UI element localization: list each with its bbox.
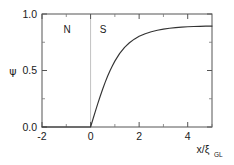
normal-region-label: N <box>63 24 70 35</box>
y-tick-label-2: 1.0 <box>22 8 37 20</box>
x-tick-label-0: -2 <box>37 130 46 142</box>
x-axis-label: x/ξ <box>197 143 210 155</box>
y-tick-label-1: 0.5 <box>22 64 37 76</box>
x-tick-label-1: 0 <box>88 130 94 142</box>
y-axis-label: ψ <box>9 65 16 78</box>
x-axis-label-subscript: GL <box>214 151 223 158</box>
y-tick-label-0: 0.0 <box>22 121 37 133</box>
x-tick-label-3: 4 <box>185 130 191 142</box>
x-tick-label-2: 2 <box>136 130 142 142</box>
chart-figure: 0.0 0.5 1.0 -2 0 2 4 ψ x/ξ GL N S <box>0 0 234 165</box>
order-parameter-plot: 0.0 0.5 1.0 -2 0 2 4 ψ x/ξ GL N S <box>0 0 234 165</box>
superconducting-region-label: S <box>100 24 107 35</box>
